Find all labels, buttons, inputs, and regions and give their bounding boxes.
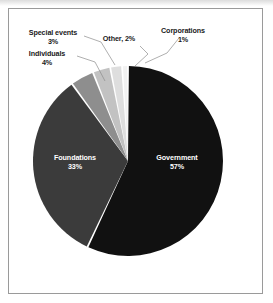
pie-label-individuals: Individuals 4% — [14, 49, 80, 67]
leader-line-other — [135, 46, 148, 66]
pie-label-individuals-value: 4% — [14, 58, 80, 67]
pie-label-government-value: 57% — [139, 162, 215, 171]
pie-label-government-name: Government — [139, 153, 215, 162]
pie-label-individuals-name: Individuals — [14, 49, 80, 58]
pie-label-foundations-value: 33% — [37, 162, 113, 171]
pie-label-other: Other, 2% — [93, 34, 145, 43]
pie-label-corporations: Corporations 1% — [148, 26, 218, 44]
chart-page: Special events 3% Individuals 4% Other, … — [0, 0, 273, 303]
pie-label-corporations-name: Corporations — [148, 26, 218, 35]
scan-artifact — [0, 0, 273, 6]
pie-label-foundations: Foundations 33% — [37, 153, 113, 172]
pie-label-foundations-name: Foundations — [37, 153, 113, 162]
pie-label-government: Government 57% — [139, 153, 215, 172]
pie-label-special-events-name: Special events — [15, 28, 91, 37]
chart-frame: Special events 3% Individuals 4% Other, … — [8, 8, 263, 294]
pie-label-special-events: Special events 3% — [15, 28, 91, 46]
pie-label-other-name: Other, 2% — [103, 34, 135, 43]
pie-label-corporations-value: 1% — [148, 35, 218, 44]
pie-label-special-events-value: 3% — [15, 37, 91, 46]
